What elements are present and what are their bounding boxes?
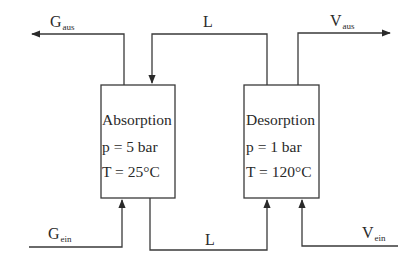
desorption-temperature: T = 120°C <box>246 164 311 180</box>
vapor-in-subscript: ein <box>375 233 386 243</box>
vapor-out-stream-line <box>298 33 390 85</box>
gas-out-stream-line <box>32 34 124 85</box>
vapor-out-label: Vaus <box>330 13 355 31</box>
liquid-top-symbol: L <box>203 13 213 30</box>
liquid-bottom-label: L <box>205 232 215 248</box>
gas-out-label: Gaus <box>50 14 75 32</box>
liquid-top-label: L <box>203 14 213 30</box>
vapor-in-symbol: V <box>362 224 374 241</box>
absorption-temperature: T = 25°C <box>102 164 160 180</box>
gas-in-label: Gein <box>48 226 72 244</box>
gas-out-subscript: aus <box>63 22 75 32</box>
flow-lines <box>0 0 420 264</box>
absorption-pressure: p = 5 bar <box>102 139 158 155</box>
desorption-pressure: p = 1 bar <box>246 139 302 155</box>
gas-out-symbol: G <box>50 13 62 30</box>
absorption-desorption-diagram: Gaus L Vaus Gein L Vein Absorption p = 5… <box>0 0 420 264</box>
liquid-bottom-symbol: L <box>205 231 215 248</box>
liquid-top-stream-line <box>152 34 267 85</box>
gas-in-subscript: ein <box>61 234 72 244</box>
desorption-title: Desorption <box>246 112 315 128</box>
gas-in-stream-line <box>29 200 122 247</box>
absorption-title: Absorption <box>102 112 172 128</box>
vapor-out-subscript: aus <box>343 21 355 31</box>
gas-in-symbol: G <box>48 225 60 242</box>
vapor-out-symbol: V <box>330 12 342 29</box>
vapor-in-label: Vein <box>362 225 386 243</box>
